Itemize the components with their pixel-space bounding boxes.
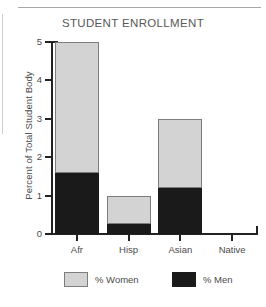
y-tick-mark [45,118,53,120]
bar-segment-women[interactable] [158,119,202,188]
y-tick-mark [45,233,53,235]
y-tick-mark [45,195,53,197]
y-tick-label: 1 [28,190,42,201]
x-tick-mark [76,234,78,241]
y-axis-line [51,41,53,235]
x-tick-label: Asian [154,244,206,255]
y-tick-mark [45,156,53,158]
x-tick-mark [128,234,130,241]
bar-segment-men[interactable] [107,224,151,234]
y-tick-mark [45,79,53,81]
legend-swatch-women-icon [64,272,88,287]
legend-label-women: % Women [95,274,139,285]
bar-segment-women[interactable] [55,42,99,173]
y-tick-label: 2 [28,151,42,162]
x-tick-mark [231,234,233,241]
plot-area: 012345 AfrHispAsianNative [0,0,266,307]
y-tick-mark [45,41,53,43]
x-tick-label: Native [206,244,258,255]
chart-legend: % Women % Men [0,270,266,292]
y-tick-label: 3 [28,113,42,124]
y-tick-label: 5 [28,36,42,47]
x-axis-right-cap [256,226,258,235]
legend-label-men: % Men [203,274,233,285]
x-tick-label: Hisp [103,244,155,255]
bar-segment-women[interactable] [107,196,151,225]
legend-item-women: % Women [64,270,139,288]
y-tick-label: 0 [28,228,42,239]
legend-item-men: % Men [172,270,233,288]
x-tick-label: Afr [51,244,103,255]
bar-segment-men[interactable] [158,188,202,234]
x-tick-mark [179,234,181,241]
bar-segment-men[interactable] [55,173,99,234]
y-tick-label: 4 [28,74,42,85]
legend-swatch-men-icon [172,272,196,287]
